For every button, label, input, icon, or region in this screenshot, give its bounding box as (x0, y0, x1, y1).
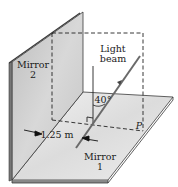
angle-label: 40° (93, 95, 113, 105)
mirror-2-label-line2: 2 (16, 70, 50, 80)
mirror-diagram: Mirror 2 Light beam 40° 1.25 m P Mirror … (0, 0, 178, 187)
distance-label: 1.25 m (38, 130, 76, 140)
mirror-2-label: Mirror 2 (16, 60, 50, 80)
beam-label-line2: beam (96, 54, 130, 64)
point-p-label: P (134, 121, 144, 131)
mirror-1-label-line2: 1 (82, 162, 118, 172)
beam-label: Light beam (96, 44, 130, 64)
mirror-1-label: Mirror 1 (82, 152, 118, 172)
